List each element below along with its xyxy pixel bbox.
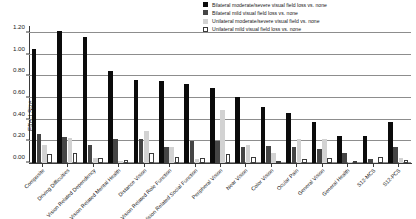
- bar-group: [258, 33, 283, 163]
- legend-label: Bilateral mild visual field loss vs. non…: [212, 10, 298, 16]
- bar: [47, 154, 52, 163]
- bar: [317, 149, 322, 163]
- bar: [68, 138, 73, 163]
- effect-size-bar-chart: Bilateral moderate/severe visual field l…: [0, 0, 416, 219]
- bar: [378, 157, 383, 164]
- bar: [297, 139, 302, 163]
- bar-set: [156, 33, 181, 163]
- bar: [37, 134, 42, 163]
- legend-label: Unilateral moderate/severe visual field …: [212, 18, 320, 24]
- bar: [113, 139, 118, 163]
- bar-set: [80, 33, 105, 163]
- plot-area: Effect Size 0.000.200.400.600.801.001.20: [29, 33, 411, 163]
- bar: [62, 137, 67, 163]
- bar-set: [233, 33, 258, 163]
- bar: [164, 147, 169, 163]
- bar-set: [207, 33, 232, 163]
- bar: [42, 145, 47, 163]
- bar-group: [360, 33, 385, 163]
- bar-set: [360, 33, 385, 163]
- bar: [266, 146, 271, 163]
- x-label-cell: S12-PCS: [386, 166, 411, 219]
- bar: [124, 160, 129, 163]
- x-tick-label: S12-PCS: [382, 168, 402, 188]
- bar-group: [233, 33, 258, 163]
- bar: [286, 113, 291, 163]
- bar-group: [105, 33, 130, 163]
- y-tick-label: 0.60: [13, 88, 25, 95]
- bar: [271, 153, 276, 163]
- x-tick-label: S12-MCS: [356, 168, 377, 189]
- bar: [251, 157, 256, 164]
- bar: [388, 122, 393, 163]
- bar-set: [29, 33, 54, 163]
- legend-swatch-icon: [203, 2, 208, 7]
- bar: [235, 97, 240, 163]
- chart-legend: Bilateral moderate/severe visual field l…: [203, 1, 413, 34]
- bar-set: [182, 33, 207, 163]
- legend-swatch-icon: [203, 19, 208, 24]
- bar: [57, 31, 62, 163]
- bar: [175, 157, 180, 164]
- bar-set: [54, 33, 79, 163]
- bar: [139, 139, 144, 163]
- bar: [342, 153, 347, 163]
- bar: [292, 147, 297, 163]
- bar: [108, 71, 113, 163]
- y-tick-label: 1.20: [13, 23, 25, 30]
- bar-group: [207, 33, 232, 163]
- y-tick-label: 1.00: [13, 44, 25, 51]
- x-tick-label: Composite: [24, 168, 46, 190]
- bar: [261, 107, 266, 163]
- bar-set: [258, 33, 283, 163]
- bar-set: [105, 33, 130, 163]
- bar: [246, 145, 251, 163]
- bar: [393, 147, 398, 163]
- bar: [190, 141, 195, 163]
- bar-group: [80, 33, 105, 163]
- bar-set: [284, 33, 309, 163]
- bar: [149, 153, 154, 163]
- y-tick-label: 0.40: [13, 109, 25, 116]
- y-tick-label: 0.20: [13, 131, 25, 138]
- bar: [404, 160, 409, 163]
- bar-set: [131, 33, 156, 163]
- legend-item[interactable]: Bilateral mild visual field loss vs. non…: [203, 9, 413, 17]
- bar-group: [182, 33, 207, 163]
- bar: [276, 161, 281, 163]
- bar-group: [386, 33, 411, 163]
- bar-group: [156, 33, 181, 163]
- x-label-cell: Color Vision: [258, 166, 283, 219]
- bar: [220, 110, 225, 163]
- x-axis-labels: CompositeDriving DifficultiesVision Rela…: [29, 166, 411, 219]
- x-label-cell: S12-MCS: [360, 166, 385, 219]
- bar-group: [309, 33, 334, 163]
- bar: [169, 147, 174, 163]
- bar: [134, 80, 139, 163]
- bar: [159, 81, 164, 163]
- bar: [363, 136, 368, 163]
- bar: [73, 153, 78, 163]
- bar: [302, 159, 307, 163]
- bar-group: [335, 33, 360, 163]
- bar: [200, 158, 205, 163]
- bar: [215, 141, 220, 163]
- bar: [312, 122, 317, 163]
- legend-item[interactable]: Unilateral moderate/severe visual field …: [203, 17, 413, 25]
- bar-groups: [29, 33, 411, 163]
- bar: [88, 145, 93, 163]
- bar-group: [54, 33, 79, 163]
- legend-item[interactable]: Bilateral moderate/severe visual field l…: [203, 1, 413, 9]
- bar: [241, 147, 246, 163]
- bar: [184, 84, 189, 163]
- bar: [98, 158, 103, 163]
- bar: [83, 37, 88, 163]
- bar-set: [386, 33, 411, 163]
- y-tick-label: 0.80: [13, 66, 25, 73]
- x-label-cell: Peripheral Vision: [207, 166, 232, 219]
- bar: [322, 139, 327, 163]
- bar: [327, 158, 332, 163]
- bar-group: [131, 33, 156, 163]
- bar: [144, 131, 149, 164]
- y-tick-label: 0.00: [13, 153, 25, 160]
